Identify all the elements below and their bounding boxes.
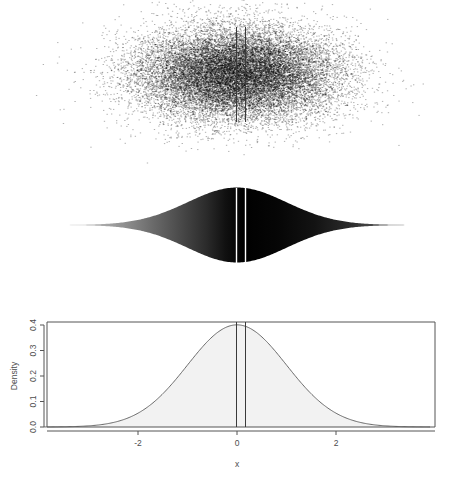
violin-plot-svg [0,165,450,290]
figure-canvas: 0.4 0.3 0.2 0.1 0.0 Density -2 0 2 x [0,0,450,477]
y-tick-label-0.4: 0.4 [28,319,38,331]
y-axis: 0.4 0.3 0.2 0.1 0.0 Density [9,319,44,433]
x-axis: -2 0 2 x [47,431,435,469]
scatter-points-path [36,0,423,163]
density-panel: 0.4 0.3 0.2 0.1 0.0 Density -2 0 2 x [0,290,450,477]
y-tick-label-0.2: 0.2 [28,370,38,382]
y-axis-title: Density [9,361,19,390]
x-tick-label-0: 0 [235,438,240,448]
scatter-point-cloud [36,0,423,163]
y-tick-label-0.0: 0.0 [28,421,38,433]
violin-panel [0,165,450,290]
x-axis-title: x [235,459,240,469]
scatter-plot-svg [0,0,450,165]
x-tick-label--2: -2 [134,438,142,448]
x-tick-label-2: 2 [334,438,339,448]
violin-body [0,165,450,290]
density-plot-svg: 0.4 0.3 0.2 0.1 0.0 Density -2 0 2 x [0,290,450,477]
y-tick-label-0.3: 0.3 [28,344,38,356]
scatter-panel [0,0,450,165]
y-tick-label-0.1: 0.1 [28,395,38,407]
